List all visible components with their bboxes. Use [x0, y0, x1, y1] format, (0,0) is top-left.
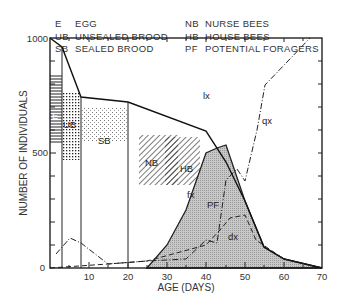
- chart-svg: 10 20 30 40 50 60 70 0 500 1000 AGE (DAY…: [0, 0, 342, 301]
- label-pf: PF: [207, 199, 219, 210]
- x-tick-label: 70: [317, 271, 328, 282]
- x-tick-label: 30: [162, 271, 173, 282]
- x-tick-label: 40: [201, 271, 212, 282]
- y-tick-label: 0: [40, 262, 45, 273]
- region-house-bees: [165, 137, 200, 185]
- x-axis-label: AGE (DAYS): [157, 282, 214, 293]
- label-lx: lx: [203, 90, 210, 101]
- label-e: E: [52, 110, 58, 121]
- x-tick-label: 20: [123, 271, 134, 282]
- y-tick-label: 1000: [27, 33, 48, 44]
- label-sb: SB: [98, 135, 111, 146]
- label-ub: UB: [63, 119, 76, 130]
- label-fx: fx: [187, 189, 195, 200]
- label-hb: HB: [180, 163, 193, 174]
- y-axis-label: NUMBER OF INDIVIDUALS: [18, 90, 29, 216]
- x-tick-label: 60: [279, 271, 290, 282]
- y-tick-label: 500: [32, 147, 48, 158]
- label-qx: qx: [262, 115, 272, 126]
- x-tick-label: 50: [240, 271, 251, 282]
- label-nb: NB: [145, 157, 158, 168]
- x-tick-label: 10: [84, 271, 95, 282]
- label-dx: dx: [228, 231, 238, 242]
